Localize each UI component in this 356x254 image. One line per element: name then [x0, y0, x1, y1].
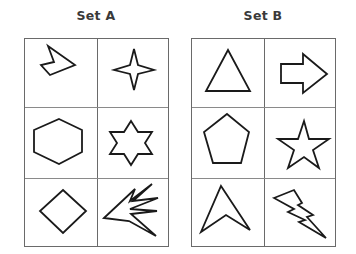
- pentagon-icon: [204, 114, 249, 163]
- five-point-star-icon: [278, 121, 329, 168]
- irregular-arrowhead-polygon-icon: [41, 46, 75, 75]
- triangle-icon: [206, 50, 250, 91]
- lightning-bolt-icon: [274, 190, 326, 238]
- shapes-layer: [0, 0, 356, 254]
- hexagon-icon: [34, 119, 82, 164]
- arrowhead-chevron-icon: [201, 186, 250, 232]
- six-point-star-icon: [110, 121, 152, 165]
- diamond-icon: [40, 190, 86, 233]
- right-arrow-icon: [281, 54, 327, 93]
- four-point-star-icon: [114, 49, 154, 90]
- burst-spike-polygon-icon: [104, 184, 158, 236]
